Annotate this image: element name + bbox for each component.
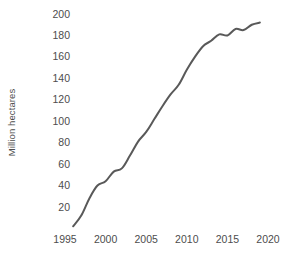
plot-svg: [0, 0, 294, 259]
plot-area: [0, 0, 294, 259]
chart-figure: Million hectares 20406080100120140160180…: [0, 0, 294, 259]
data-line-million-hectares: [73, 23, 260, 227]
